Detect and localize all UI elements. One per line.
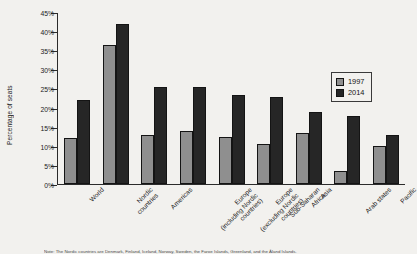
legend-label-1997: 1997 bbox=[348, 77, 364, 86]
bar-2014 bbox=[154, 87, 167, 184]
y-tick-label: 25% bbox=[40, 86, 54, 93]
y-axis-title: Percentage of seats bbox=[2, 60, 16, 170]
chart-legend: 1997 2014 bbox=[331, 72, 372, 102]
bar-2014 bbox=[77, 100, 90, 184]
y-tick-label: 10% bbox=[40, 143, 54, 150]
y-tick-label: 15% bbox=[40, 124, 54, 131]
y-tick-label: 30% bbox=[40, 67, 54, 74]
bar-group bbox=[212, 13, 251, 184]
bar-group bbox=[251, 13, 290, 184]
bar-2014 bbox=[347, 116, 360, 184]
x-axis-label: Asia bbox=[319, 186, 333, 200]
bar-2014 bbox=[116, 24, 129, 184]
bar-group bbox=[97, 13, 136, 184]
x-axis-label: World bbox=[88, 186, 105, 203]
bar-2014 bbox=[232, 95, 245, 184]
bar-2014 bbox=[193, 87, 206, 184]
x-axis-label: Europe (including Nordic countries) bbox=[214, 186, 265, 237]
bar-group bbox=[58, 13, 97, 184]
y-tick-label: 35% bbox=[40, 48, 54, 55]
y-tick-label: 45% bbox=[40, 10, 54, 17]
y-tick-label: 40% bbox=[40, 29, 54, 36]
legend-swatch-2014-icon bbox=[336, 89, 344, 97]
bar-1997 bbox=[64, 138, 77, 184]
bar-1997 bbox=[219, 137, 232, 185]
legend-label-2014: 2014 bbox=[348, 88, 364, 97]
bar-1997 bbox=[180, 131, 193, 184]
x-axis-label: Arab states bbox=[364, 186, 393, 215]
bar-1997 bbox=[334, 171, 347, 184]
bar-group bbox=[289, 13, 328, 184]
bar-1997 bbox=[373, 146, 386, 184]
x-axis-label: Americas bbox=[169, 186, 194, 211]
x-axis-line bbox=[57, 184, 405, 185]
bar-2014 bbox=[309, 112, 322, 184]
legend-item-1997: 1997 bbox=[336, 76, 364, 87]
bar-1997 bbox=[257, 144, 270, 184]
y-tick-label: 5% bbox=[44, 162, 54, 169]
bar-group bbox=[135, 13, 174, 184]
y-tick-label: 0% bbox=[44, 182, 54, 189]
x-axis-label: Pacific bbox=[398, 186, 417, 205]
bar-1997 bbox=[103, 45, 116, 184]
legend-item-2014: 2014 bbox=[336, 87, 364, 98]
x-axis-labels: WorldNordic countriesAmericasEurope (inc… bbox=[58, 186, 406, 248]
bar-1997 bbox=[141, 135, 154, 184]
y-tick-label: 20% bbox=[40, 105, 54, 112]
bar-2014 bbox=[270, 97, 283, 184]
bar-2014 bbox=[386, 135, 399, 184]
bar-group bbox=[174, 13, 213, 184]
x-axis-label: Nordic countries bbox=[130, 186, 160, 216]
bar-1997 bbox=[296, 133, 309, 184]
legend-swatch-1997-icon bbox=[336, 78, 344, 86]
chart-note: Note: The Nordic countries are Denmark, … bbox=[44, 249, 412, 254]
